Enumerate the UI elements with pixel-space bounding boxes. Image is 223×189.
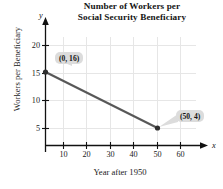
- x-tick-label-60: 60: [171, 150, 191, 159]
- x-tick-label-50: 50: [148, 150, 168, 159]
- y-axis: [42, 17, 49, 152]
- y-tick-label-10: 10: [22, 96, 40, 105]
- chart-figure: Number of Workers per Social Security Be…: [0, 0, 223, 189]
- data-point-marker: [155, 125, 160, 130]
- x-tick-label-30: 30: [101, 150, 121, 159]
- plot-area: [0, 0, 223, 189]
- annotation-callout-end: (50, 4): [176, 110, 204, 122]
- y-tick-label-5: 5: [22, 124, 40, 133]
- annotation-callout-start: (0, 16): [55, 52, 83, 64]
- x-tick-label-40: 40: [124, 150, 144, 159]
- y-tick-label-20: 20: [22, 41, 40, 50]
- data-point-marker: [43, 69, 48, 74]
- x-axis: [46, 142, 209, 149]
- callout-leaders: [58, 56, 178, 127]
- x-axis-letter: x: [212, 141, 216, 150]
- x-tick-label-20: 20: [77, 150, 97, 159]
- y-tick-label-15: 15: [22, 69, 40, 78]
- y-axis-letter: y: [39, 11, 43, 20]
- y-axis-label: Workers per Beneficiary: [12, 4, 22, 134]
- x-axis-label: Year after 1950: [40, 167, 200, 177]
- x-tick-label-10: 10: [54, 150, 74, 159]
